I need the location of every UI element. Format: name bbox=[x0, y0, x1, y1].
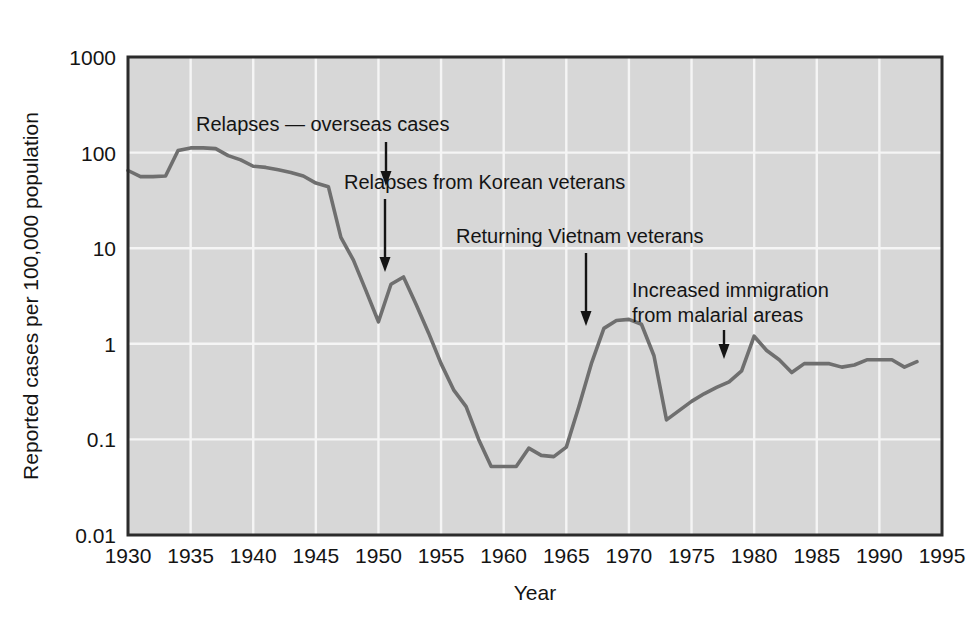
y-axis-title: Reported cases per 100,000 population bbox=[19, 112, 42, 480]
y-tick-label-1000: 1000 bbox=[69, 46, 116, 69]
y-tick-label-1: 1 bbox=[104, 333, 116, 356]
annotation-increased-immigration-label-line1: Increased immigration bbox=[632, 279, 829, 301]
x-tick-label-1985: 1985 bbox=[793, 544, 840, 567]
x-tick-label-1980: 1980 bbox=[731, 544, 778, 567]
annotation-relapses-korean-label: Relapses from Korean veterans bbox=[344, 171, 625, 193]
x-tick-label-1960: 1960 bbox=[480, 544, 527, 567]
x-tick-label-1935: 1935 bbox=[167, 544, 214, 567]
x-tick-label-1975: 1975 bbox=[668, 544, 715, 567]
malaria-incidence-line-chart: 10001001010.10.01 1930193519401945195019… bbox=[0, 0, 979, 623]
x-tick-label-1930: 1930 bbox=[105, 544, 152, 567]
chart-figure: 10001001010.10.01 1930193519401945195019… bbox=[0, 0, 979, 623]
x-tick-label-1950: 1950 bbox=[355, 544, 402, 567]
annotation-returning-vietnam-label: Returning Vietnam veterans bbox=[456, 225, 704, 247]
x-tick-label-1945: 1945 bbox=[292, 544, 339, 567]
x-tick-label-1965: 1965 bbox=[543, 544, 590, 567]
x-tick-label-1995: 1995 bbox=[919, 544, 966, 567]
x-tick-label-1940: 1940 bbox=[230, 544, 277, 567]
y-tick-label-10: 10 bbox=[93, 237, 116, 260]
y-tick-label-100: 100 bbox=[81, 142, 116, 165]
y-tick-label-0.1: 0.1 bbox=[87, 428, 116, 451]
x-tick-label-1990: 1990 bbox=[856, 544, 903, 567]
x-axis-title: Year bbox=[514, 581, 556, 604]
x-tick-label-1970: 1970 bbox=[606, 544, 653, 567]
annotation-relapses-overseas-label: Relapses — overseas cases bbox=[196, 113, 449, 135]
x-tick-label-1955: 1955 bbox=[418, 544, 465, 567]
annotation-increased-immigration-label-line2: from malarial areas bbox=[632, 304, 803, 326]
